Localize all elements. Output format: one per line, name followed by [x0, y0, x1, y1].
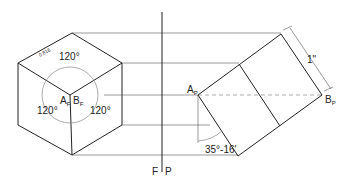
label-angle-profile: 35°-16′ — [205, 144, 237, 155]
label-dimension: 1" — [307, 54, 317, 65]
angle-arc-profile — [198, 131, 222, 141]
projection-diagram: 120° 120° 120° AF BF 0.816 F P AP BP 1" … — [0, 0, 353, 180]
cube-profile-view — [198, 26, 333, 156]
label-b-front: BF — [73, 95, 84, 107]
label-angle-left: 120° — [37, 105, 58, 116]
fold-label-p: P — [165, 166, 172, 177]
label-b-profile: BP — [325, 94, 336, 106]
label-a-profile: AP — [187, 84, 198, 96]
label-angle-right: 120° — [90, 105, 111, 116]
fold-label-f: F — [152, 166, 158, 177]
label-edge: 0.816 — [38, 46, 52, 58]
label-a-front: AF — [60, 95, 71, 107]
label-angle-top: 120° — [59, 51, 80, 62]
